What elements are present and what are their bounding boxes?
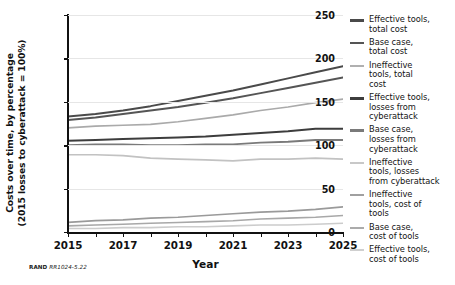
legend-item-2[interactable]: Ineffectivetools, totalcost <box>350 61 413 90</box>
series-line-6 <box>68 207 343 223</box>
x-axis-title: Year <box>68 258 343 270</box>
series-lines <box>68 15 343 232</box>
x-tick-label-2021: 2021 <box>219 239 248 251</box>
legend-label: Base case,cost of tools <box>369 223 419 242</box>
x-tick-2022 <box>261 232 262 237</box>
y-tick-label-200: 200 <box>315 53 335 64</box>
legend-item-1[interactable]: Base case,total cost <box>350 38 413 57</box>
x-tick-label-2015: 2015 <box>54 239 83 251</box>
gridline-y-150 <box>68 102 343 103</box>
x-tick-2024 <box>316 232 317 237</box>
legend-swatch-icon <box>350 97 364 100</box>
legend-swatch-icon <box>350 65 364 67</box>
y-tick-50 <box>64 189 68 190</box>
y-axis-title-line1: Costs over time, by percentage <box>4 18 16 248</box>
series-line-0 <box>68 66 343 116</box>
series-line-1 <box>68 78 343 121</box>
y-tick-label-50: 50 <box>322 183 335 194</box>
x-tick-label-2023: 2023 <box>274 239 303 251</box>
legend-swatch-icon <box>350 19 364 22</box>
x-tick-2015 <box>68 232 69 237</box>
legend-label: Ineffectivetools, cost oftools <box>369 190 421 219</box>
legend-item-5[interactable]: Ineffectivetools, lossesfrom cyberattack <box>350 158 439 187</box>
legend-swatch-icon <box>350 162 364 164</box>
legend-item-0[interactable]: Effective tools,total cost <box>350 15 430 34</box>
gridline-y-250 <box>68 15 343 16</box>
y-tick-150 <box>64 102 68 103</box>
gridline-y-100 <box>68 145 343 146</box>
y-tick-label-250: 250 <box>315 10 335 21</box>
legend-swatch-icon <box>350 42 364 45</box>
legend-swatch-icon <box>350 129 364 131</box>
legend-item-7[interactable]: Base case,cost of tools <box>350 223 419 242</box>
y-tick-250 <box>64 15 68 16</box>
legend-item-8[interactable]: Effective tools,cost of tools <box>350 245 430 264</box>
legend-label: Effective tools,cost of tools <box>369 245 430 264</box>
gridline-y-200 <box>68 58 343 59</box>
x-tick-2023 <box>288 232 289 237</box>
x-tick-2016 <box>96 232 97 237</box>
y-tick-100 <box>64 145 68 146</box>
legend-label: Ineffectivetools, lossesfrom cyberattack <box>369 158 439 187</box>
x-tick-label-2017: 2017 <box>109 239 138 251</box>
y-tick-label-100: 100 <box>315 140 335 151</box>
x-tick-2025 <box>343 232 344 237</box>
plot-area: 050100150200250 201520172019202120232025 <box>68 15 343 232</box>
figure-container: Costs over time, by percentage (2015 los… <box>0 0 455 285</box>
legend-label: Base case,total cost <box>369 38 413 57</box>
gridline-y-50 <box>68 189 343 190</box>
x-tick-2018 <box>151 232 152 237</box>
x-tick-label-2019: 2019 <box>164 239 193 251</box>
legend-label: Ineffectivetools, totalcost <box>369 61 413 90</box>
legend-item-6[interactable]: Ineffectivetools, cost oftools <box>350 190 421 219</box>
legend-swatch-icon <box>350 194 364 196</box>
legend-item-4[interactable]: Base case,losses fromcyberattack <box>350 125 418 154</box>
footnote-id: RR1024-5.22 <box>49 264 87 270</box>
series-line-3 <box>68 129 343 141</box>
y-axis-title: Costs over time, by percentage (2015 los… <box>4 18 34 248</box>
figure-footnote: RAND RR1024-5.22 <box>29 264 87 270</box>
legend-label: Base case,losses fromcyberattack <box>369 125 418 154</box>
legend-swatch-icon <box>350 249 364 251</box>
legend-item-3[interactable]: Effective tools,losses fromcyberattack <box>350 93 430 122</box>
legend-swatch-icon <box>350 227 364 229</box>
x-tick-2017 <box>123 232 124 237</box>
x-tick-2020 <box>206 232 207 237</box>
y-tick-200 <box>64 58 68 59</box>
legend-label: Effective tools,total cost <box>369 15 430 34</box>
y-axis-line <box>67 14 69 233</box>
x-tick-2021 <box>233 232 234 237</box>
y-axis-title-line2: (2015 losses to cyberattack = 100%) <box>16 18 28 248</box>
y-tick-label-0: 0 <box>328 227 335 238</box>
chart-legend: Effective tools,total costBase case,tota… <box>350 8 455 260</box>
x-tick-2019 <box>178 232 179 237</box>
footnote-prefix: RAND <box>29 264 47 270</box>
y-tick-label-150: 150 <box>315 96 335 107</box>
legend-label: Effective tools,losses fromcyberattack <box>369 93 430 122</box>
series-line-5 <box>68 155 343 161</box>
